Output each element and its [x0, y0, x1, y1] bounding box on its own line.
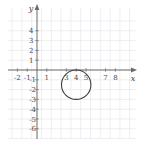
x-tick-label: -2: [14, 74, 21, 82]
y-tick-label: 2: [29, 47, 33, 55]
x-tick-label: 4: [74, 74, 79, 82]
coordinate-plane-figure: -2 -1 1 3 4 5 7 8 4 3 2 1 -1 -2 -3 -4 -5…: [0, 0, 143, 144]
y-tick-label: -6: [29, 125, 36, 133]
y-tick-label: 3: [29, 37, 33, 45]
x-tick-label: 7: [103, 74, 107, 82]
y-tick-label: -3: [29, 96, 36, 104]
y-tick-label: -2: [29, 86, 36, 94]
y-tick-label: -4: [29, 106, 36, 114]
graph-canvas: -2 -1 1 3 4 5 7 8 4 3 2 1 -1 -2 -3 -4 -5…: [0, 0, 143, 144]
y-tick-label: 1: [29, 57, 33, 65]
x-axis-label: x: [131, 74, 136, 83]
y-axis-label: y: [28, 4, 34, 13]
y-tick-labels: 4 3 2 1 -1 -2 -3 -4 -5 -6: [29, 27, 37, 133]
y-tick-label: -5: [29, 116, 36, 124]
x-tick-label: 8: [113, 74, 117, 82]
x-tick-label: 1: [45, 74, 49, 82]
y-tick-label: -1: [29, 76, 36, 84]
y-tick-label: 4: [29, 27, 34, 35]
